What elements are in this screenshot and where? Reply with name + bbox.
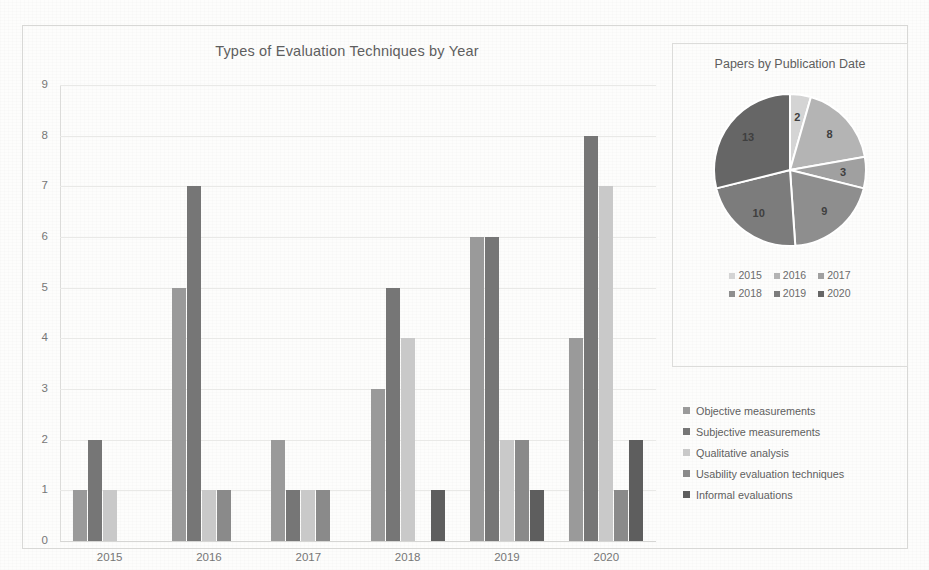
bar <box>301 490 315 541</box>
y-axis-tick-label: 7 <box>22 179 48 191</box>
bar-group <box>60 85 159 541</box>
y-axis-tick-label: 2 <box>22 433 48 445</box>
pie-legend-item: 2017 <box>818 266 850 284</box>
pie-chart-panel: Papers by Publication Date 28391013 2015… <box>672 43 908 367</box>
pie-chart-legend: 201520162017201820192020 <box>673 266 907 302</box>
pie-legend-item: 2016 <box>774 266 806 284</box>
y-axis-tick-label: 6 <box>22 230 48 242</box>
legend-item: Informal evaluations <box>683 484 913 505</box>
bar <box>569 338 583 541</box>
pie-legend-item-label: 2018 <box>738 287 761 299</box>
pie-legend-swatch-icon <box>729 291 735 297</box>
y-axis-tick-label: 5 <box>22 281 48 293</box>
pie-legend-swatch-icon <box>818 291 824 297</box>
y-axis-tick-label: 8 <box>22 129 48 141</box>
pie-legend-row: 201820192020 <box>673 284 907 302</box>
pie-chart-title: Papers by Publication Date <box>673 57 907 71</box>
bar <box>286 490 300 541</box>
y-axis-tick-label: 0 <box>22 534 48 546</box>
pie-legend-item: 2020 <box>818 284 850 302</box>
bar-group <box>159 85 258 541</box>
pie-legend-swatch-icon <box>774 291 780 297</box>
legend-swatch-icon <box>683 491 690 498</box>
x-axis-tick-label: 2015 <box>60 551 159 563</box>
bar <box>386 288 400 541</box>
bar-group <box>557 85 656 541</box>
legend-item-label: Subjective measurements <box>696 426 820 438</box>
bar-chart-title: Types of Evaluation Techniques by Year <box>22 43 672 59</box>
x-axis-tick-label: 2017 <box>259 551 358 563</box>
y-axis-tick-label: 3 <box>22 382 48 394</box>
bar <box>172 288 186 541</box>
bar-group <box>358 85 457 541</box>
bar <box>431 490 445 541</box>
x-axis-tick-label: 2016 <box>159 551 258 563</box>
bar <box>485 237 499 541</box>
pie-legend-item: 2019 <box>774 284 806 302</box>
legend-swatch-icon <box>683 470 690 477</box>
bar <box>515 440 529 541</box>
legend-item-label: Usability evaluation techniques <box>696 468 844 480</box>
bar-chart-plot-area: 201520162017201820192020 <box>60 85 656 541</box>
bar <box>103 490 117 541</box>
legend-item: Usability evaluation techniques <box>683 463 913 484</box>
x-axis-tick-label: 2019 <box>457 551 556 563</box>
axis-baseline <box>60 541 656 542</box>
legend-item-label: Objective measurements <box>696 405 815 417</box>
pie-legend-row: 201520162017 <box>673 266 907 284</box>
bar-chart: Types of Evaluation Techniques by Year 0… <box>22 25 672 547</box>
bar <box>599 186 613 541</box>
pie-legend-swatch-icon <box>774 273 780 279</box>
legend-swatch-icon <box>683 407 690 414</box>
bar <box>73 490 87 541</box>
pie-legend-item: 2018 <box>729 284 761 302</box>
x-axis-tick-label: 2020 <box>557 551 656 563</box>
legend-item: Qualitative analysis <box>683 442 913 463</box>
legend-item-label: Qualitative analysis <box>696 447 789 459</box>
pie-legend-item-label: 2019 <box>783 287 806 299</box>
bar <box>187 186 201 541</box>
pie-slice-label: 10 <box>753 207 765 219</box>
y-axis-tick-label: 1 <box>22 483 48 495</box>
pie-slice-label: 13 <box>742 131 754 143</box>
pie-legend-item-label: 2015 <box>738 269 761 281</box>
y-axis-tick-label: 4 <box>22 331 48 343</box>
bar <box>530 490 544 541</box>
pie-slice-label: 8 <box>826 128 832 140</box>
pie-slice-label: 9 <box>821 205 827 217</box>
pie-slice-label: 3 <box>840 166 846 178</box>
bar-group <box>457 85 556 541</box>
pie-legend-item-label: 2017 <box>827 269 850 281</box>
legend-item-label: Informal evaluations <box>696 489 793 501</box>
x-axis-tick-label: 2018 <box>358 551 457 563</box>
bar <box>584 136 598 541</box>
legend-swatch-icon <box>683 428 690 435</box>
legend-item: Subjective measurements <box>683 421 913 442</box>
pie-slice-label: 2 <box>794 111 800 123</box>
legend-item: Objective measurements <box>683 400 913 421</box>
pie-chart-graphic: 28391013 <box>713 92 867 248</box>
pie-legend-swatch-icon <box>729 273 735 279</box>
bar-chart-legend: Objective measurementsSubjective measure… <box>683 400 913 505</box>
pie-legend-item-label: 2016 <box>783 269 806 281</box>
legend-swatch-icon <box>683 449 690 456</box>
pie-legend-swatch-icon <box>818 273 824 279</box>
y-axis-tick-label: 9 <box>22 78 48 90</box>
bar <box>371 389 385 541</box>
bar <box>202 490 216 541</box>
bar <box>271 440 285 541</box>
bar <box>401 338 415 541</box>
bar <box>88 440 102 541</box>
bar <box>316 490 330 541</box>
pie-legend-item-label: 2020 <box>827 287 850 299</box>
bar <box>500 440 514 541</box>
bar-group <box>259 85 358 541</box>
bar <box>614 490 628 541</box>
bar <box>629 440 643 541</box>
bar <box>470 237 484 541</box>
pie-legend-item: 2015 <box>729 266 761 284</box>
bar <box>217 490 231 541</box>
